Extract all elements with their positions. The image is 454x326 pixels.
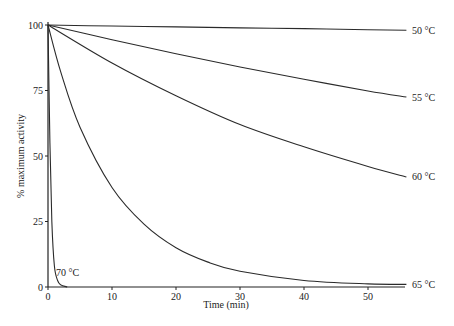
x-tick-label: 20 (171, 291, 181, 302)
curve-50c (48, 25, 406, 30)
curve-label: 70 °C (56, 267, 79, 278)
x-tick-label: 10 (107, 291, 117, 302)
curve-label: 50 °C (412, 25, 435, 36)
curves (48, 25, 406, 287)
y-axis-title: % maximum activity (15, 114, 26, 198)
activity-vs-time-chart: 0255075100 01020304050 50 °C55 °C60 °C65… (0, 0, 454, 326)
curve-55c (48, 25, 406, 97)
x-axis-title: Time (min) (203, 299, 248, 311)
x-tick-label: 0 (46, 291, 51, 302)
y-tick-label: 0 (38, 282, 43, 293)
x-tick-label: 40 (299, 291, 309, 302)
y-tick-label: 50 (33, 151, 43, 162)
y-tick-label: 25 (33, 216, 43, 227)
y-tick-label: 75 (33, 85, 43, 96)
curve-label: 60 °C (412, 171, 435, 182)
y-ticks: 0255075100 (28, 20, 48, 293)
axes (48, 22, 405, 287)
curve-70c (48, 25, 67, 287)
curve-label: 55 °C (412, 92, 435, 103)
curve-label: 65 °C (412, 279, 435, 290)
x-tick-label: 50 (363, 291, 373, 302)
y-tick-label: 100 (28, 20, 43, 31)
curve-labels: 50 °C55 °C60 °C65 °C70 °C (56, 25, 435, 290)
curve-60c (48, 25, 406, 177)
